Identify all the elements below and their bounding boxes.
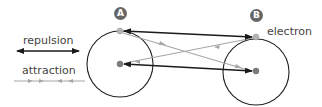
repulsion-label: repulsion (23, 35, 74, 46)
electron-label: electron (267, 26, 312, 37)
attraction-legend-arrow (14, 79, 85, 83)
nucleus-a (117, 61, 123, 67)
diagram-canvas (0, 0, 322, 107)
atom-a-badge: A (114, 7, 127, 20)
electron-a (117, 28, 123, 34)
attraction-label: attraction (22, 65, 76, 76)
nucleus-b (253, 68, 259, 74)
electron-b (253, 34, 259, 40)
atom-b-badge: B (250, 9, 263, 22)
